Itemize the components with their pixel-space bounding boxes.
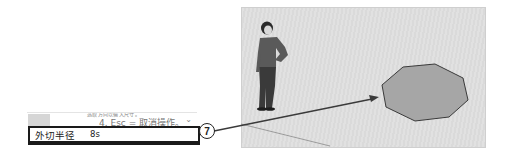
chevron-down-icon[interactable]: ⌄ [185,115,192,124]
octagon-face[interactable] [382,64,468,121]
measurements-box[interactable]: 外切半径 8s [28,126,200,145]
ground-axis-line [241,124,330,146]
arrowhead-icon [369,95,379,102]
callout-arrow-line [214,99,372,131]
measurement-label: 外切半径 [35,128,75,142]
person-figure[interactable] [256,22,288,111]
callout-number-badge: 7 [199,123,215,139]
measurement-value-input[interactable]: 8s [90,129,100,139]
